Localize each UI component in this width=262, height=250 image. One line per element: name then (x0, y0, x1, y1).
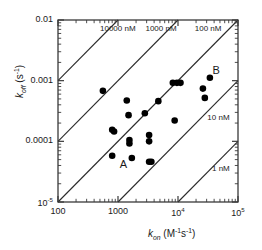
iso-label-10000nM: 10000 nM (100, 25, 136, 33)
xtick-label-1000: 1000 (88, 207, 148, 216)
point-label-A: A (120, 159, 127, 170)
xtick-label-1e5: 105 (208, 207, 262, 218)
iso-label-1nM: 1 nM (212, 165, 230, 173)
data-point-series (100, 74, 214, 165)
scatter-plot-figure: 0.01 0.001 0.0001 10-5 100 1000 104 105 … (0, 0, 262, 250)
iso-label-10nM: 10 nM (207, 114, 229, 122)
iso-kd-lines (58, 20, 238, 202)
ytick-label-0.0001: 0.0001 (0, 136, 53, 145)
ytick-label-0.01: 0.01 (0, 15, 53, 24)
iso-label-1000nM: 1000 nM (145, 25, 176, 33)
point-label-B: B (213, 65, 220, 76)
xtick-label-1e4: 104 (148, 207, 208, 218)
xtick-label-100: 100 (28, 207, 88, 216)
iso-label-100nM: 100 nM (195, 25, 222, 33)
